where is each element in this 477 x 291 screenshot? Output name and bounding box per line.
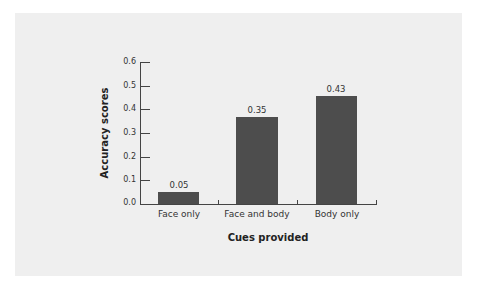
bar-value-label: 0.05 [149, 180, 209, 190]
y-tick [141, 86, 150, 87]
y-tick [141, 62, 150, 63]
y-tick-label: 0.0 [106, 198, 136, 208]
x-axis-line [140, 204, 377, 205]
category-label: Body only [297, 209, 377, 220]
category-label: Face only [139, 209, 219, 220]
x-tick [218, 200, 219, 204]
y-tick-label: 0.1 [106, 175, 136, 185]
bar-body-only [316, 96, 357, 204]
x-tick [297, 200, 298, 204]
y-tick [141, 109, 150, 110]
bar-face-and-body [236, 117, 278, 204]
category-label: Face and body [217, 209, 297, 220]
y-tick-label: 0.4 [106, 104, 136, 114]
y-tick-label: 0.6 [106, 57, 136, 67]
bar-value-label: 0.43 [306, 84, 366, 94]
x-axis-label: Cues provided [198, 232, 338, 244]
bar-face-only [158, 192, 199, 204]
x-tick [376, 200, 377, 204]
y-tick [141, 133, 150, 134]
bar-value-label: 0.35 [227, 105, 287, 115]
y-tick-label: 0.3 [106, 128, 136, 138]
y-tick [141, 157, 150, 158]
y-tick-label: 0.2 [106, 152, 136, 162]
y-tick-label: 0.5 [106, 81, 136, 91]
